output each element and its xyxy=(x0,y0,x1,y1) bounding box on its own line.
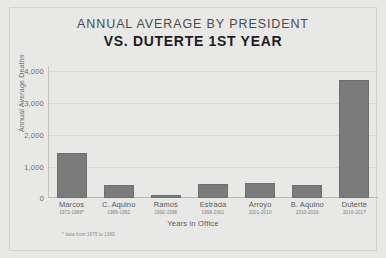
x-tick-marcos: Marcos 1972-1986* xyxy=(48,200,95,216)
x-tick-label-duterte: Duterte xyxy=(331,200,378,209)
x-tick-years-duterte: 2016-2017 xyxy=(331,209,378,216)
chart-poster: ANNUAL AVERAGE BY PRESIDENT VS. DUTERTE … xyxy=(0,0,386,258)
bar-cell-estrada xyxy=(189,66,236,198)
x-tick-years-c-aquino: 1986-1992 xyxy=(95,209,142,216)
x-tick-duterte: Duterte 2016-2017 xyxy=(331,200,378,216)
x-tick-years-ramos: 1992-1998 xyxy=(142,209,189,216)
y-tick-2000: 2,000 xyxy=(24,131,44,140)
x-tick-arroyo: Arroyo 2001-2010 xyxy=(237,200,284,216)
bar-cell-duterte xyxy=(331,66,378,198)
plot-area: Annual Average Deaths 4,000 3,000 2,000 … xyxy=(0,0,386,258)
bar-marcos[interactable] xyxy=(57,153,87,198)
bar-cell-b-aquino xyxy=(284,66,331,198)
x-tick-label-arroyo: Arroyo xyxy=(237,200,284,209)
x-tick-estrada: Estrada 1998-2001 xyxy=(189,200,236,216)
bar-cell-c-aquino xyxy=(95,66,142,198)
bar-b-aquino[interactable] xyxy=(292,185,322,198)
x-tick-label-c-aquino: C. Aquino xyxy=(95,200,142,209)
bar-arroyo[interactable] xyxy=(245,183,275,199)
x-tick-years-marcos: 1972-1986* xyxy=(48,209,95,216)
x-tick-years-estrada: 1998-2001 xyxy=(189,209,236,216)
y-tick-3000: 3,000 xyxy=(24,99,44,108)
x-tick-years-b-aquino: 2010-2016 xyxy=(284,209,331,216)
x-tick-b-aquino: B. Aquino 2010-2016 xyxy=(284,200,331,216)
chart-footnote: * data from 1975 to 1985 xyxy=(62,232,115,237)
plot-canvas: 4,000 3,000 2,000 1,000 0 xyxy=(48,66,378,198)
bar-cell-arroyo xyxy=(237,66,284,198)
bar-ramos[interactable] xyxy=(151,195,181,198)
x-tick-ramos: Ramos 1992-1998 xyxy=(142,200,189,216)
x-axis-title: Years in Office xyxy=(0,219,386,228)
x-tick-label-ramos: Ramos xyxy=(142,200,189,209)
x-tick-years-arroyo: 2001-2010 xyxy=(237,209,284,216)
bar-cell-ramos xyxy=(142,66,189,198)
bar-estrada[interactable] xyxy=(198,184,228,198)
bar-series xyxy=(48,66,378,198)
bar-c-aquino[interactable] xyxy=(104,185,134,198)
y-tick-1000: 1,000 xyxy=(24,163,44,172)
x-axis-tick-labels: Marcos 1972-1986* C. Aquino 1986-1992 Ra… xyxy=(48,200,378,216)
bar-cell-marcos xyxy=(48,66,95,198)
x-tick-label-b-aquino: B. Aquino xyxy=(284,200,331,209)
bar-duterte[interactable] xyxy=(339,80,369,198)
x-tick-label-estrada: Estrada xyxy=(189,200,236,209)
x-tick-label-marcos: Marcos xyxy=(48,200,95,209)
x-tick-c-aquino: C. Aquino 1986-1992 xyxy=(95,200,142,216)
y-tick-0: 0 xyxy=(40,194,44,203)
y-tick-4000: 4,000 xyxy=(24,67,44,76)
